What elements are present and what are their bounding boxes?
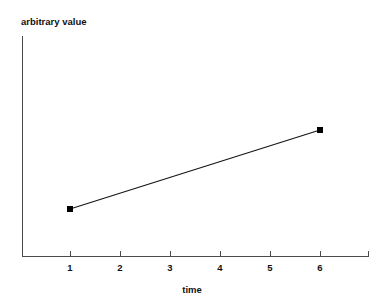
x-tick-label-3: 3 <box>167 262 172 273</box>
x-tick-label-4: 4 <box>217 262 223 273</box>
x-tick-label-5: 5 <box>267 262 273 273</box>
line-chart: arbitrary value 1 2 3 4 5 6 time <box>0 0 384 304</box>
chart-screenshot: arbitrary value 1 2 3 4 5 6 time <box>0 0 384 304</box>
x-tick-label-6: 6 <box>317 262 322 273</box>
x-tick-label-2: 2 <box>117 262 122 273</box>
x-tick-label-1: 1 <box>67 262 73 273</box>
data-point-marker <box>317 127 323 133</box>
data-point-marker <box>67 206 73 212</box>
series-line-arbitrary-value <box>70 130 320 209</box>
y-axis-label: arbitrary value <box>21 16 86 27</box>
x-axis-label: time <box>182 284 202 295</box>
